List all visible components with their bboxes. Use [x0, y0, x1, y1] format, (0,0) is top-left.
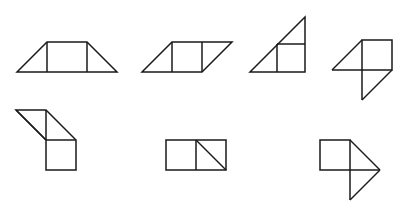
geometric-figures-canvas [0, 0, 402, 208]
canvas-background [0, 0, 402, 208]
